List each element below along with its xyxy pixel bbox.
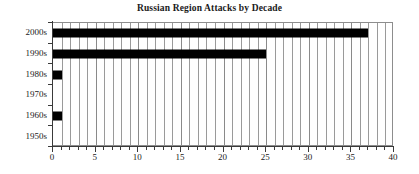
x-tick-7 bbox=[112, 147, 113, 150]
x-tick-27 bbox=[282, 147, 283, 150]
x-tick-label-10: 10 bbox=[122, 152, 152, 162]
x-tick-24 bbox=[257, 147, 258, 150]
y-tick-6 bbox=[48, 146, 52, 147]
x-tick-9 bbox=[129, 147, 130, 150]
bar-2000s[interactable] bbox=[53, 29, 368, 38]
bar-row-1950s bbox=[53, 126, 392, 146]
x-tick-31 bbox=[316, 147, 317, 150]
x-tick-11 bbox=[146, 147, 147, 150]
bar-row-1970s bbox=[53, 85, 392, 106]
y-tick-3 bbox=[48, 84, 52, 85]
x-tick-29 bbox=[299, 147, 300, 150]
x-tick-28 bbox=[291, 147, 292, 150]
y-tick-label-1950s: 1950s bbox=[0, 131, 47, 141]
x-tick-38 bbox=[376, 147, 377, 150]
y-tick-4 bbox=[48, 105, 52, 106]
y-tick-label-2000s: 2000s bbox=[0, 27, 47, 37]
x-tick-23 bbox=[248, 147, 249, 150]
x-tick-label-30: 30 bbox=[293, 152, 323, 162]
x-tick-label-35: 35 bbox=[335, 152, 365, 162]
y-tick-5 bbox=[48, 125, 52, 126]
x-tick-34 bbox=[342, 147, 343, 150]
y-tick-label-1980s: 1980s bbox=[0, 69, 47, 79]
x-tick-3 bbox=[78, 147, 79, 150]
x-tick-33 bbox=[333, 147, 334, 150]
x-tick-16 bbox=[188, 147, 189, 150]
x-tick-17 bbox=[197, 147, 198, 150]
bar-1960s[interactable] bbox=[53, 111, 62, 120]
x-tick-2 bbox=[69, 147, 70, 150]
y-tick-label-1970s: 1970s bbox=[0, 89, 47, 99]
x-tick-37 bbox=[367, 147, 368, 150]
y-tick-1 bbox=[48, 43, 52, 44]
bar-row-2000s bbox=[53, 23, 392, 44]
x-tick-13 bbox=[163, 147, 164, 150]
y-tick-0 bbox=[48, 22, 52, 23]
x-tick-4 bbox=[86, 147, 87, 150]
x-tick-1 bbox=[61, 147, 62, 150]
x-tick-6 bbox=[103, 147, 104, 150]
x-tick-39 bbox=[384, 147, 385, 150]
bar-row-1960s bbox=[53, 106, 392, 127]
x-tick-19 bbox=[214, 147, 215, 150]
bar-row-1990s bbox=[53, 44, 392, 65]
plot-area bbox=[52, 22, 393, 146]
y-axis-line bbox=[52, 21, 53, 147]
x-tick-label-5: 5 bbox=[80, 152, 110, 162]
x-tick-36 bbox=[359, 147, 360, 150]
x-tick-18 bbox=[205, 147, 206, 150]
x-tick-22 bbox=[240, 147, 241, 150]
bar-1980s[interactable] bbox=[53, 70, 62, 79]
x-tick-32 bbox=[325, 147, 326, 150]
y-tick-2 bbox=[48, 63, 52, 64]
bar-1990s[interactable] bbox=[53, 49, 266, 58]
x-tick-label-15: 15 bbox=[165, 152, 195, 162]
x-tick-8 bbox=[120, 147, 121, 150]
x-tick-label-20: 20 bbox=[208, 152, 238, 162]
x-tick-12 bbox=[154, 147, 155, 150]
bar-row-1980s bbox=[53, 64, 392, 85]
y-tick-label-1990s: 1990s bbox=[0, 48, 47, 58]
x-tick-label-25: 25 bbox=[250, 152, 280, 162]
x-tick-26 bbox=[274, 147, 275, 150]
x-tick-14 bbox=[171, 147, 172, 150]
chart-title: Russian Region Attacks by Decade bbox=[0, 3, 419, 13]
x-tick-label-40: 40 bbox=[378, 152, 408, 162]
chart-container: Russian Region Attacks by Decade 0510152… bbox=[0, 0, 419, 174]
y-tick-label-1960s: 1960s bbox=[0, 110, 47, 120]
x-tick-label-0: 0 bbox=[37, 152, 67, 162]
x-tick-21 bbox=[231, 147, 232, 150]
